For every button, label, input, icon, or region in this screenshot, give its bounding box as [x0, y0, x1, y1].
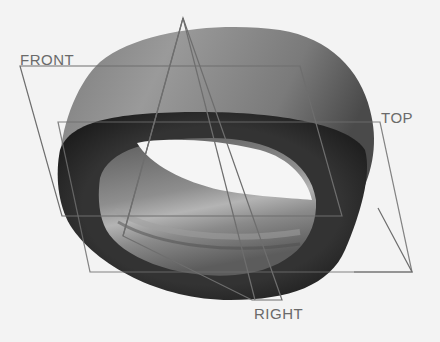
datum-label-right[interactable]: RIGHT — [254, 306, 303, 321]
datum-label-front[interactable]: FRONT — [20, 52, 74, 67]
ring-body[interactable] — [58, 27, 374, 300]
cad-3d-viewport[interactable]: FRONT TOP RIGHT — [0, 0, 440, 342]
datum-label-top[interactable]: TOP — [381, 110, 413, 125]
